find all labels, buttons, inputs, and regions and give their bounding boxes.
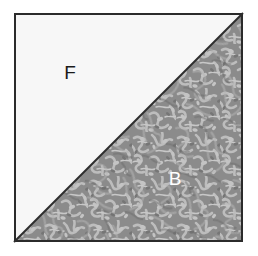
foreground-label: F xyxy=(64,62,76,83)
figure-canvas: F B xyxy=(0,0,258,256)
background-label: B xyxy=(169,168,182,189)
segmentation-figure: F B xyxy=(0,0,258,256)
